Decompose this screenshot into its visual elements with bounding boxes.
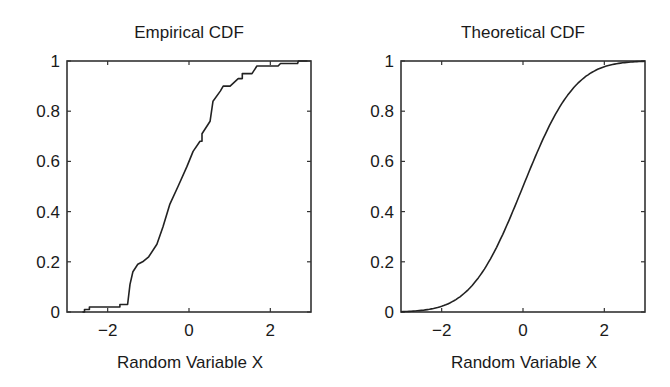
empirical-cdf-curve <box>83 61 308 312</box>
y-tick-label: 0.8 <box>370 102 394 121</box>
x-tick-label: 2 <box>266 321 275 340</box>
x-tick-label: 2 <box>600 321 609 340</box>
y-tick-label: 0 <box>385 303 394 322</box>
x-tick-label: −2 <box>98 321 117 340</box>
x-tick-label: 0 <box>518 321 527 340</box>
x-tick-label: −2 <box>432 321 451 340</box>
theoretical-y-ticks: 00.20.40.60.81 <box>370 52 645 322</box>
y-tick-label: 1 <box>51 52 60 71</box>
empirical-cdf-plot: Empirical CDF 00.20.40.60.81 −202 Random… <box>36 23 311 372</box>
y-tick-label: 0.8 <box>36 102 60 121</box>
x-tick-label: 0 <box>184 321 193 340</box>
y-tick-label: 0.2 <box>370 253 394 272</box>
y-tick-label: 0.4 <box>370 203 394 222</box>
y-tick-label: 1 <box>385 52 394 71</box>
empirical-x-ticks: −202 <box>98 61 275 340</box>
empirical-cdf-title: Empirical CDF <box>134 23 244 42</box>
y-tick-label: 0.6 <box>36 152 60 171</box>
theoretical-cdf-title: Theoretical CDF <box>461 23 585 42</box>
empirical-plot-frame <box>67 61 311 312</box>
figure: Empirical CDF 00.20.40.60.81 −202 Random… <box>0 0 670 387</box>
theoretical-x-axis-label: Random Variable X <box>451 353 597 372</box>
y-tick-label: 0.6 <box>370 152 394 171</box>
empirical-y-ticks: 00.20.40.60.81 <box>36 52 311 322</box>
y-tick-label: 0 <box>51 303 60 322</box>
theoretical-cdf-plot: Theoretical CDF 00.20.40.60.81 −202 Rand… <box>370 23 645 372</box>
y-tick-label: 0.2 <box>36 253 60 272</box>
theoretical-cdf-curve <box>401 61 645 311</box>
y-tick-label: 0.4 <box>36 203 60 222</box>
empirical-x-axis-label: Random Variable X <box>117 353 263 372</box>
